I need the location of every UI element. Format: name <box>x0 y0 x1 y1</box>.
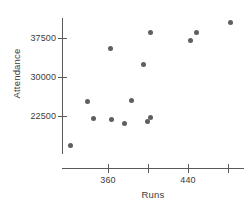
data-point <box>68 143 73 148</box>
scatter-plot-figure: 37500 30000 22500 360 440 Attendance Run… <box>0 0 251 204</box>
x-axis-tick-480 <box>228 164 229 173</box>
data-point <box>122 121 127 126</box>
data-point <box>108 46 113 51</box>
data-point <box>188 38 193 43</box>
data-point <box>91 116 96 121</box>
x-axis-tick-400 <box>148 164 149 173</box>
plot-area: 37500 30000 22500 360 440 Attendance Run… <box>0 0 251 204</box>
data-point <box>148 30 153 35</box>
data-point <box>228 20 233 25</box>
y-axis-tick-label-30000: 30000 <box>30 73 56 82</box>
x-axis-tick-360 <box>108 164 109 173</box>
x-axis-line <box>62 168 244 169</box>
x-axis-tick-440 <box>188 164 189 173</box>
y-axis-title: Attendance <box>11 34 22 114</box>
y-axis-tick-30000 <box>58 77 67 78</box>
data-point <box>129 98 134 103</box>
x-axis-tick-label-360: 360 <box>88 176 128 185</box>
y-axis-tick-label-37500: 37500 <box>30 34 56 43</box>
data-point <box>148 115 153 120</box>
y-axis-tick-22500 <box>58 116 67 117</box>
y-axis-tick-label-22500: 22500 <box>30 112 56 121</box>
data-point <box>85 99 90 104</box>
x-axis-title: Runs <box>62 189 244 200</box>
data-point <box>194 30 199 35</box>
data-point <box>141 62 146 67</box>
data-point <box>109 117 114 122</box>
x-axis-tick-label-440: 440 <box>168 176 208 185</box>
y-axis-tick-37500 <box>58 38 67 39</box>
